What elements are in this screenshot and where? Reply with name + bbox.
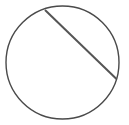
circle-chord-diagram xyxy=(0,0,129,125)
chord-line xyxy=(45,10,117,79)
circle xyxy=(6,6,119,119)
